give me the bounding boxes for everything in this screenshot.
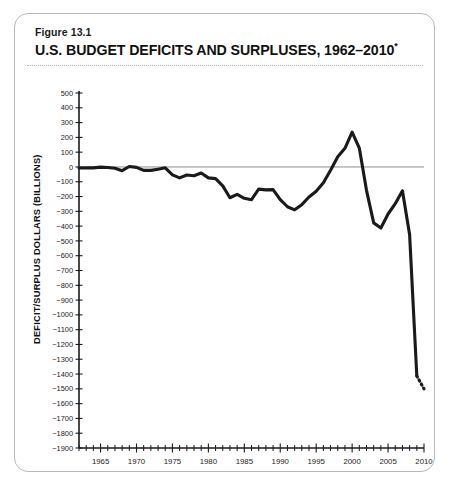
- y-axis-tick-label: −1500: [52, 384, 73, 393]
- y-axis-tick-label: −400: [56, 222, 73, 231]
- y-axis-tick-label: −600: [56, 251, 73, 260]
- x-axis-tick-label: 2000: [343, 457, 361, 466]
- y-axis-tick-label: −500: [56, 237, 73, 246]
- y-axis-tick-label: −1300: [52, 355, 73, 364]
- y-axis-tick-label: −1000: [52, 310, 73, 319]
- y-axis-tick-label: −300: [56, 207, 73, 216]
- chart-area: DEFICIT/SURPLUS DOLLARS (BILLIONS) 19651…: [15, 14, 436, 473]
- y-axis-tick-label: −700: [56, 266, 73, 275]
- x-axis-tick-label: 1995: [308, 457, 326, 466]
- y-axis-tick-label: −200: [56, 192, 73, 201]
- budget-deficit-line-chart: DEFICIT/SURPLUS DOLLARS (BILLIONS) 19651…: [15, 14, 436, 473]
- y-axis-title: DEFICIT/SURPLUS DOLLARS (BILLIONS): [32, 154, 42, 344]
- data-series-actual: [79, 132, 417, 376]
- x-axis-tick-label: 1970: [128, 457, 146, 466]
- y-axis-tick-label: −100: [56, 177, 73, 186]
- figure-card: Figure 13.1 U.S. BUDGET DEFICITS AND SUR…: [14, 13, 435, 472]
- x-axis-labels: 1965197019751980198519901995200020052010: [92, 457, 433, 466]
- x-axis-tick-label: 1990: [272, 457, 290, 466]
- data-series-projected: [417, 376, 424, 389]
- y-axis-tick-label: −800: [56, 281, 73, 290]
- y-axis-tick-label: −900: [56, 296, 73, 305]
- y-axis-tick-label: 200: [61, 133, 73, 142]
- x-axis-tick-label: 1980: [200, 457, 218, 466]
- y-axis-tick-label: −1100: [53, 325, 73, 334]
- x-axis-tick-label: 1985: [236, 457, 254, 466]
- y-axis-tick-label: 400: [61, 103, 73, 112]
- x-axis-tick-label: 1975: [164, 457, 182, 466]
- y-axis-tick-label: 0: [69, 163, 73, 172]
- x-axis-tick-label: 1965: [92, 457, 110, 466]
- y-axis-tick-label: −1700: [52, 414, 73, 423]
- y-axis-title-text: DEFICIT/SURPLUS DOLLARS (BILLIONS): [32, 154, 42, 344]
- y-axis-tick-label: −1400: [52, 370, 73, 379]
- y-axis-tick-label: −1900: [52, 444, 73, 453]
- y-axis-labels: 5004003002001000−100−200−300−400−500−600…: [52, 89, 73, 453]
- y-axis-tick-label: 500: [61, 89, 73, 98]
- y-axis-tick-label: −1200: [52, 340, 73, 349]
- y-axis-tick-label: −1800: [52, 429, 73, 438]
- y-axis-tick-label: 100: [61, 148, 73, 157]
- y-axis-tick-label: 300: [61, 118, 73, 127]
- x-axis-tick-label: 2010: [415, 457, 433, 466]
- x-axis-tick-label: 2005: [379, 457, 397, 466]
- y-axis-tick-label: −1600: [52, 399, 73, 408]
